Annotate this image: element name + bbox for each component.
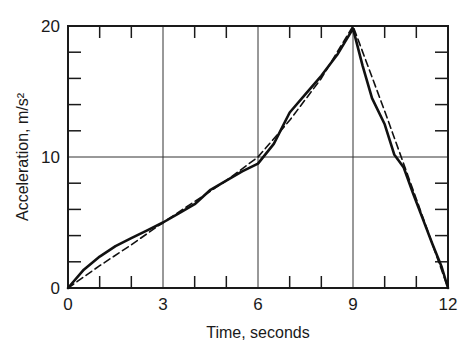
x-tick-label: 9 xyxy=(348,295,357,314)
acceleration-time-chart: 036912 01020 Time, seconds Acceleration,… xyxy=(0,0,464,345)
y-axis-title: Acceleration, m/s² xyxy=(14,92,31,221)
x-tick-labels: 036912 xyxy=(63,295,457,314)
x-tick-label: 6 xyxy=(253,295,262,314)
x-tick-label: 12 xyxy=(439,295,458,314)
x-axis-title: Time, seconds xyxy=(206,324,309,341)
y-tick-label: 0 xyxy=(51,279,60,298)
y-tick-label: 10 xyxy=(41,148,60,167)
y-tick-labels: 01020 xyxy=(41,17,60,298)
x-tick-label: 3 xyxy=(158,295,167,314)
y-tick-label: 20 xyxy=(41,17,60,36)
x-tick-label: 0 xyxy=(63,295,72,314)
